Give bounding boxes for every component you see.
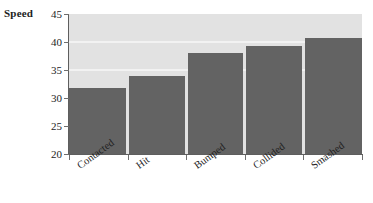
y-axis-tick-label: 40: [36, 36, 62, 48]
y-axis-tick-label: 45: [36, 8, 62, 20]
bar: [129, 76, 185, 154]
y-axis-tick-label: 30: [36, 92, 62, 104]
bar: [188, 53, 244, 154]
x-axis-tick-mark: [362, 155, 363, 160]
x-axis-tick-mark: [128, 155, 129, 160]
y-axis-tick-mark: [64, 126, 69, 127]
y-axis-tick-label: 25: [36, 120, 62, 132]
bar-chart-figure: Speed 454035302520 ContactedHitBumpedCol…: [0, 0, 373, 203]
y-axis-tick-label: 20: [36, 148, 62, 160]
bar: [305, 38, 362, 154]
x-axis-tick-mark: [303, 155, 304, 160]
x-axis-tick-mark: [186, 155, 187, 160]
x-axis-tick-mark: [245, 155, 246, 160]
y-axis-tick-mark: [64, 42, 69, 43]
x-axis-tick-mark: [69, 155, 70, 160]
y-axis-tick-mark: [64, 98, 69, 99]
y-axis-tick-mark: [64, 14, 69, 15]
y-axis-line: [68, 14, 69, 155]
y-axis-tick-label: 35: [36, 64, 62, 76]
y-axis-title: Speed: [4, 7, 33, 19]
bar: [246, 46, 302, 154]
plot-area: [69, 14, 362, 154]
x-axis-category-label: Hit: [134, 154, 151, 171]
y-axis-tick-mark: [64, 70, 69, 71]
y-axis-tick-label-group: 454035302520: [36, 0, 62, 203]
